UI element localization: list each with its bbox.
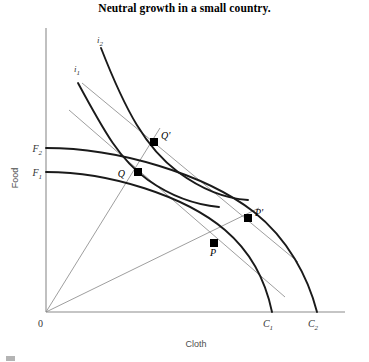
x-axis-title: Cloth xyxy=(185,339,206,349)
economics-diagram: Neutral growth in a small country. Q Q' … xyxy=(0,0,369,362)
point-marker-Q-prime xyxy=(150,138,158,146)
curve-label-i1: i1 xyxy=(74,64,80,77)
ppf-after-growth xyxy=(46,148,317,312)
curve-label-i2: i2 xyxy=(97,35,104,48)
ppf-before-growth xyxy=(46,172,272,312)
y-tick-label-F2: F2 xyxy=(31,143,42,157)
x-tick-label-C1: C1 xyxy=(263,318,273,332)
point-marker-P-prime xyxy=(244,214,252,222)
point-label-Q-prime: Q' xyxy=(161,130,171,141)
point-marker-P xyxy=(210,239,218,247)
x-tick-label-C2: C2 xyxy=(308,318,319,332)
plot-area: Q Q' P P' i1 i2 F2 F1 C1 C2 0 Cloth Food xyxy=(0,0,369,362)
budget-line-before-growth xyxy=(69,110,285,297)
point-label-P: P xyxy=(209,247,216,258)
y-tick-label-F1: F1 xyxy=(31,167,42,181)
point-label-Q: Q xyxy=(118,168,126,179)
point-label-P-prime: P' xyxy=(254,207,264,218)
page-bottom-fragment xyxy=(0,354,369,362)
point-marker-Q xyxy=(134,168,142,176)
fragment-bar-icon xyxy=(6,356,15,361)
origin-label: 0 xyxy=(38,318,43,329)
y-axis-title: Food xyxy=(10,168,20,189)
indifference-curve-i1 xyxy=(78,83,219,207)
budget-line-after-growth xyxy=(82,83,298,262)
